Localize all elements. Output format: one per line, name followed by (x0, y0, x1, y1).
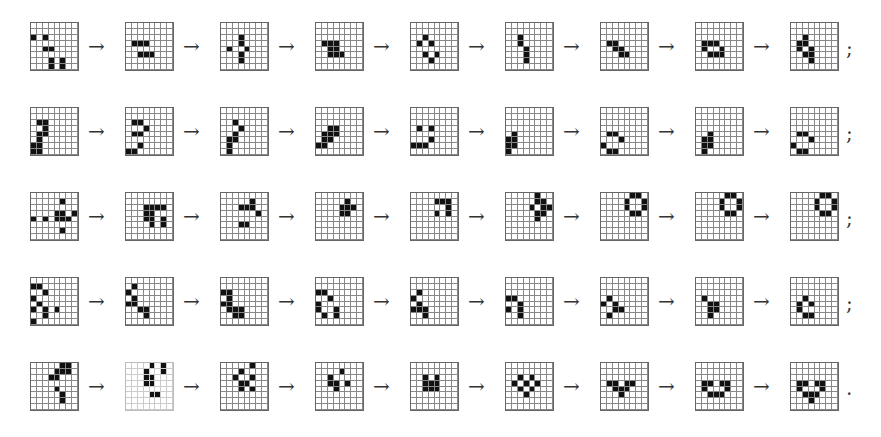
right-arrow-icon: → (753, 291, 770, 311)
right-arrow-icon: → (183, 121, 200, 141)
state-grid (695, 192, 744, 241)
sequence-row-3: →→→→→→→→; (0, 192, 881, 252)
state-grid (125, 192, 174, 241)
state-grid (790, 107, 839, 156)
right-arrow-icon: → (753, 206, 770, 226)
right-arrow-icon: → (183, 36, 200, 56)
right-arrow-icon: → (373, 121, 390, 141)
right-arrow-icon: → (468, 36, 485, 56)
grid-cell (357, 404, 363, 410)
state-grid (790, 192, 839, 241)
state-grid (695, 107, 744, 156)
grid-cell (452, 64, 458, 70)
grid-cell (642, 64, 648, 70)
grid-cell (737, 404, 743, 410)
right-arrow-icon: → (88, 36, 105, 56)
sequence-terminator: ; (846, 38, 853, 58)
right-arrow-icon: → (563, 36, 580, 56)
grid-cell (737, 319, 743, 325)
right-arrow-icon: → (278, 121, 295, 141)
state-grid (600, 277, 649, 326)
right-arrow-icon: → (658, 206, 675, 226)
grid-cell (547, 64, 553, 70)
state-grid (600, 192, 649, 241)
right-arrow-icon: → (88, 376, 105, 396)
right-arrow-icon: → (183, 291, 200, 311)
grid-cell (452, 404, 458, 410)
grid-cell (262, 404, 268, 410)
grid-cell (832, 319, 838, 325)
grid-cell (642, 234, 648, 240)
state-grid (30, 362, 79, 411)
state-grid (695, 362, 744, 411)
grid-cell (262, 319, 268, 325)
right-arrow-icon: → (468, 376, 485, 396)
grid-cell (262, 64, 268, 70)
right-arrow-icon: → (468, 121, 485, 141)
grid-cell (642, 404, 648, 410)
sequence-row-1: →→→→→→→→; (0, 22, 881, 82)
state-grid (505, 277, 554, 326)
grid-cell (452, 149, 458, 155)
state-grid (600, 107, 649, 156)
right-arrow-icon: → (183, 376, 200, 396)
state-grid (125, 362, 174, 411)
state-grid (410, 22, 459, 71)
state-grid (220, 277, 269, 326)
state-grid (315, 107, 364, 156)
state-grid (30, 22, 79, 71)
grid-cell (547, 404, 553, 410)
state-grid (315, 277, 364, 326)
state-grid (220, 22, 269, 71)
right-arrow-icon: → (88, 291, 105, 311)
sequence-terminator: . (846, 378, 852, 398)
right-arrow-icon: → (753, 36, 770, 56)
state-grid (220, 107, 269, 156)
state-grid (600, 362, 649, 411)
right-arrow-icon: → (183, 206, 200, 226)
grid-cell (737, 149, 743, 155)
grid-cell (167, 64, 173, 70)
right-arrow-icon: → (658, 121, 675, 141)
grid-cell (832, 64, 838, 70)
state-grid (695, 22, 744, 71)
grid-cell (72, 319, 78, 325)
state-grid (410, 362, 459, 411)
sequence-terminator: ; (846, 293, 853, 313)
grid-cell (167, 149, 173, 155)
state-grid (410, 277, 459, 326)
grid-cell (167, 234, 173, 240)
state-grid (410, 192, 459, 241)
right-arrow-icon: → (88, 206, 105, 226)
sequence-terminator: ; (846, 123, 853, 143)
state-grid (125, 22, 174, 71)
grid-cell (737, 234, 743, 240)
state-grid (315, 362, 364, 411)
grid-cell (452, 234, 458, 240)
right-arrow-icon: → (563, 206, 580, 226)
right-arrow-icon: → (278, 376, 295, 396)
state-grid (125, 107, 174, 156)
state-grid (505, 22, 554, 71)
grid-cell (262, 149, 268, 155)
grid-cell (737, 64, 743, 70)
right-arrow-icon: → (658, 36, 675, 56)
grid-cell (357, 234, 363, 240)
right-arrow-icon: → (753, 376, 770, 396)
right-arrow-icon: → (373, 36, 390, 56)
state-grid (790, 22, 839, 71)
grid-cell (167, 319, 173, 325)
right-arrow-icon: → (563, 291, 580, 311)
state-grid (790, 362, 839, 411)
state-grid (410, 107, 459, 156)
grid-cell (357, 64, 363, 70)
grid-cell (72, 234, 78, 240)
grid-cell (547, 234, 553, 240)
state-grid (505, 192, 554, 241)
grid-cell (642, 319, 648, 325)
right-arrow-icon: → (278, 36, 295, 56)
grid-cell (547, 319, 553, 325)
grid-cell (832, 149, 838, 155)
state-grid (315, 22, 364, 71)
state-grid (30, 107, 79, 156)
